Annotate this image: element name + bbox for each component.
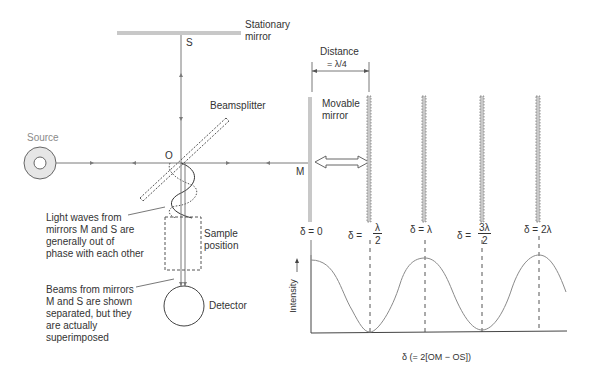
distance-value: = λ/4 bbox=[327, 58, 347, 70]
arrowhead bbox=[295, 258, 299, 263]
mirror-positions bbox=[367, 96, 540, 222]
x-axis-label: δ (= 2[OM − OS]) bbox=[402, 351, 471, 363]
beam-arrow bbox=[179, 73, 183, 77]
beam-arrow bbox=[226, 161, 230, 165]
sample-position-box bbox=[165, 217, 201, 270]
light-waves-note: Light waves from mirrors M and S are gen… bbox=[46, 212, 144, 260]
o-label: O bbox=[165, 150, 173, 162]
y-axis-label: Intensity bbox=[287, 279, 299, 313]
beam-arrow bbox=[266, 161, 270, 165]
delta-label-3-num: 3λ bbox=[478, 222, 491, 234]
arrowhead bbox=[312, 69, 317, 73]
source-inner bbox=[34, 157, 46, 169]
intensity-curve bbox=[311, 255, 566, 332]
delta-label-3: δ = bbox=[457, 230, 471, 242]
beam-arrow bbox=[90, 161, 94, 165]
x-axis bbox=[311, 331, 567, 333]
s-label: S bbox=[186, 37, 193, 49]
beam-arrow bbox=[132, 161, 136, 165]
delta-label-4: δ = 2λ bbox=[524, 224, 552, 236]
beam-arrow bbox=[183, 282, 187, 286]
beam-arrow bbox=[179, 117, 183, 121]
arrowhead bbox=[364, 69, 369, 73]
movable-mirror bbox=[308, 97, 312, 222]
leader-beams bbox=[136, 279, 174, 287]
delta-label-1-num: λ bbox=[373, 222, 382, 234]
double-arrow-icon bbox=[315, 156, 369, 168]
delta-label-1: δ = bbox=[348, 230, 362, 242]
detector-label: Detector bbox=[209, 300, 247, 312]
delta-label-0: δ = 0 bbox=[300, 226, 323, 238]
m-label: M bbox=[296, 166, 304, 178]
detector-icon bbox=[164, 286, 204, 326]
beams-note: Beams from mirrors M and S are shown sep… bbox=[46, 284, 134, 344]
delta-label-1-den: 2 bbox=[375, 235, 381, 246]
beam-arrow bbox=[179, 282, 183, 286]
stationary-mirror-label: Stationary mirror bbox=[245, 19, 290, 43]
stationary-mirror bbox=[117, 31, 241, 35]
delta-label-2: δ = λ bbox=[410, 224, 432, 236]
sample-position-label: Sample position bbox=[204, 228, 238, 252]
source-label: Source bbox=[27, 132, 59, 144]
distance-label: Distance bbox=[320, 46, 359, 58]
movable-mirror-label: Movable mirror bbox=[322, 98, 360, 122]
beamsplitter-label: Beamsplitter bbox=[210, 100, 266, 112]
delta-label-3-den: 2 bbox=[482, 235, 488, 246]
